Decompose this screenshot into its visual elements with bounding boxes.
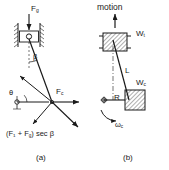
rod-length-label: L (125, 67, 129, 75)
crank-mass-block (125, 90, 145, 110)
motion-label: motion (97, 3, 123, 12)
caption-a: (a) (36, 154, 46, 162)
resultant-force-expression: (F₁ + Fg) sec β (6, 130, 54, 138)
caption-b: (b) (123, 154, 133, 162)
component-force-arrow (33, 102, 52, 124)
figure-container: Fg β θ Fc (F₁ + Fg) sec β (a) motion Wt … (0, 0, 169, 170)
gas-force-label: Fg (31, 5, 39, 13)
crank-radius-label: R (114, 94, 120, 102)
beta-angle-label: β (33, 53, 37, 61)
crank-force-label: Fc (56, 88, 63, 96)
angular-velocity-arrow (101, 110, 116, 121)
crank-weight-label: Wc (136, 79, 146, 87)
theta-angle-label: θ (9, 89, 13, 97)
resultant-force-arrow (52, 102, 78, 127)
top-weight-label: Wt (136, 30, 145, 38)
angular-velocity-label: ωc (115, 121, 123, 129)
